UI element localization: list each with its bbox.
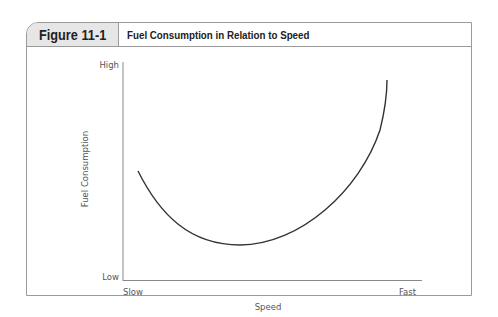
chart-area: High Low Slow Fast Speed Fuel Consumptio…: [0, 0, 498, 317]
y-axis-title: Fuel Consumption: [80, 131, 90, 207]
x-axis-title: Speed: [255, 302, 282, 312]
fuel-consumption-curve: [138, 80, 387, 245]
y-tick-low: Low: [102, 272, 119, 282]
y-tick-high: High: [99, 60, 119, 70]
x-tick-fast: Fast: [399, 287, 417, 297]
x-tick-slow: Slow: [123, 287, 143, 297]
